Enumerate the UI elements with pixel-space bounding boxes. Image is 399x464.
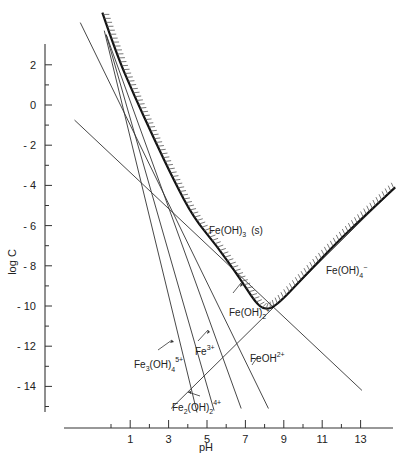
y-tick-label: - 6 <box>23 220 36 232</box>
label-fe-oh-3-solid: Fe(OH)3(s) <box>209 225 263 238</box>
hatch-mark <box>324 247 327 253</box>
hatch-mark <box>125 73 131 74</box>
label-fe2-oh2-4-plus: Fe2(OH)24+ <box>172 399 221 415</box>
hatch-mark <box>333 238 336 244</box>
label-fe3-oh4-5-plus: Fe3(OH)45+ <box>134 356 183 373</box>
species-line-fe3- <box>106 35 241 409</box>
label-fe-3-plus: Fe3+ <box>195 344 215 357</box>
species-line-fe-oh-2- <box>75 120 362 390</box>
hatch-mark <box>130 85 136 86</box>
hatch-mark <box>182 194 188 195</box>
hatch-mark <box>172 176 178 177</box>
hatch-mark <box>358 214 361 220</box>
hatch-mark <box>163 157 169 158</box>
hatch-mark <box>168 168 174 169</box>
y-tick-label: - 8 <box>23 260 36 272</box>
hatch-mark <box>190 209 196 210</box>
species-lines <box>75 23 396 413</box>
hatch-mark <box>382 191 385 197</box>
x-tick-label: 9 <box>281 433 287 445</box>
hatch-mark <box>253 297 259 299</box>
hatch-mark <box>259 302 265 305</box>
label-fe-oh-4-minus: Fe(OH)4− <box>326 264 367 279</box>
y-tick-label: 0 <box>30 99 36 111</box>
hatch-mark <box>321 250 324 256</box>
hatch-mark <box>307 265 310 271</box>
hatch-mark <box>348 223 351 229</box>
hatch-mark <box>194 215 200 217</box>
hatch-mark <box>176 183 182 184</box>
hatch-mark <box>212 238 218 240</box>
y-tick-label: 2 <box>30 59 36 71</box>
hatch-mark <box>215 242 221 244</box>
log-c-ph-diagram: 20- 2- 4- 6- 8- 10- 12- 14135791113 log … <box>0 0 399 464</box>
hatch-mark <box>232 266 238 268</box>
hatch-mark <box>318 253 321 259</box>
hatch-mark <box>256 300 262 302</box>
hatch-mark <box>174 179 180 180</box>
hatch-mark <box>222 252 228 254</box>
hatch-mark <box>373 200 376 206</box>
hatch-mark <box>272 300 274 306</box>
hatch-mark <box>156 142 162 143</box>
hatch-mark <box>287 286 290 292</box>
hatch-mark <box>202 225 208 227</box>
hatch-mark <box>292 280 295 286</box>
hatch-mark <box>217 245 223 247</box>
hatch-mark <box>364 209 367 215</box>
hatch-mark <box>342 229 345 235</box>
hatch-mark <box>284 289 287 295</box>
x-tick-label: 13 <box>354 433 366 445</box>
hatch-mark <box>301 271 304 277</box>
hatch-mark <box>379 194 382 200</box>
hatch-mark <box>313 259 316 265</box>
hatch-mark <box>151 130 157 131</box>
hatch-mark <box>289 283 292 289</box>
hatch-mark <box>275 298 277 304</box>
hatch-mark <box>192 212 198 214</box>
hatch-mark <box>304 268 307 274</box>
hatch-mark <box>376 197 379 203</box>
hatch-mark <box>128 81 134 82</box>
hatch-mark <box>316 256 319 262</box>
hatch-mark <box>345 226 348 232</box>
hatch-mark <box>370 203 373 209</box>
hatch-mark <box>295 277 298 283</box>
hatch-mark <box>230 262 236 264</box>
hatch-mark <box>351 220 354 226</box>
x-tick-label: 1 <box>127 433 133 445</box>
hatch-mark <box>184 198 190 199</box>
hatch-mark <box>251 294 257 296</box>
x-axis-label: pH <box>199 441 213 453</box>
hatch-mark <box>165 161 171 162</box>
hatch-mark <box>336 235 339 241</box>
hatch-mark <box>152 134 158 135</box>
y-axis-label: log C <box>6 249 18 275</box>
y-tick-label: - 4 <box>23 179 36 191</box>
hatch-mark <box>235 269 241 271</box>
hatch-mark <box>391 183 394 189</box>
hatch-mark <box>170 172 176 173</box>
hatch-mark <box>154 138 160 139</box>
hatch-mark <box>149 127 155 128</box>
x-tick-label: 7 <box>242 433 248 445</box>
hatch-mark <box>339 232 342 238</box>
hatch-mark <box>385 189 388 195</box>
hatch-mark <box>278 295 281 301</box>
hatch-mark <box>310 262 313 268</box>
hatch-mark <box>178 187 184 188</box>
hatch-mark <box>249 290 255 292</box>
hatch-mark <box>327 244 330 250</box>
hatch-mark <box>227 259 233 261</box>
y-tick-label: - 2 <box>23 139 36 151</box>
hatch-mark <box>167 164 173 165</box>
y-tick-label: - 10 <box>17 300 36 312</box>
leader-arrows <box>158 283 258 396</box>
hatch-mark <box>330 241 333 247</box>
species-line-feoh2- <box>80 23 268 409</box>
hatch-mark <box>158 146 164 147</box>
x-tick-label: 3 <box>166 433 172 445</box>
hatch-mark <box>126 77 132 78</box>
hatch-mark <box>298 274 301 280</box>
hatch-mark <box>354 217 357 223</box>
